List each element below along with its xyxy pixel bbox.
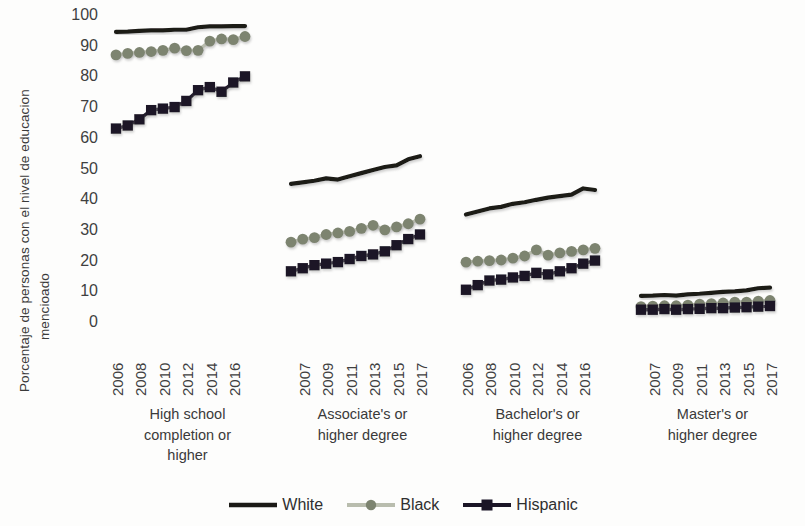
x-axis-year-labels: 2006200820102012201420162007200920112013… — [100, 324, 800, 400]
marker-hispanic-2009 — [671, 305, 681, 315]
x-tick-2017-group-4: 2017 — [763, 363, 780, 396]
marker-hispanic-2006 — [636, 305, 646, 315]
marker-black-2015 — [216, 34, 227, 45]
marker-hispanic-2012 — [706, 303, 716, 313]
group-label-1: High schoolcompletion orhigher — [100, 404, 275, 466]
marker-black-2012 — [181, 45, 192, 56]
plot-area — [100, 8, 800, 322]
legend-swatch-hispanic-icon — [461, 497, 513, 513]
marker-hispanic-2014 — [730, 302, 740, 312]
x-tick-2008-group-3: 2008 — [482, 363, 499, 396]
marker-hispanic-2008 — [659, 304, 669, 314]
series-group-2 — [286, 156, 426, 276]
legend-item-hispanic[interactable]: Hispanic — [461, 496, 577, 514]
group-label-line: higher — [100, 445, 275, 466]
x-tick-2017-group-2: 2017 — [413, 363, 430, 396]
y-axis-title: Porcentaje de personas con el nivel de e… — [0, 0, 56, 400]
marker-hispanic-2017 — [240, 71, 250, 81]
marker-black-2007 — [297, 234, 308, 245]
y-axis-tick-80: 80 — [56, 68, 98, 84]
marker-hispanic-2012 — [531, 268, 541, 278]
x-tick-2011-group-2: 2011 — [343, 364, 360, 396]
legend-swatch-black-icon — [345, 497, 397, 513]
marker-hispanic-2015 — [741, 302, 751, 312]
marker-black-2010 — [333, 228, 344, 239]
marker-black-2007 — [472, 256, 483, 267]
y-axis-tick-70: 70 — [56, 99, 98, 115]
series-group-4 — [636, 288, 776, 315]
marker-hispanic-2008 — [309, 260, 319, 270]
marker-hispanic-2007 — [123, 120, 133, 130]
y-axis-tick-20: 20 — [56, 253, 98, 269]
marker-hispanic-2008 — [484, 275, 494, 285]
x-tick-2016-group-1: 2016 — [226, 363, 243, 396]
marker-hispanic-2015 — [216, 87, 226, 97]
marker-hispanic-2017 — [590, 255, 600, 265]
group-label-line: higher degree — [275, 425, 450, 446]
marker-black-2017 — [590, 243, 601, 254]
marker-black-2011 — [519, 251, 530, 262]
legend-item-white[interactable]: White — [227, 496, 323, 514]
marker-hispanic-2007 — [473, 280, 483, 290]
marker-hispanic-2014 — [205, 82, 215, 92]
marker-hispanic-2010 — [333, 257, 343, 267]
y-axis-tick-100: 100 — [56, 7, 98, 23]
marker-hispanic-2011 — [169, 102, 179, 112]
marker-hispanic-2016 — [753, 301, 763, 311]
marker-hispanic-2016 — [578, 258, 588, 268]
marker-hispanic-2013 — [543, 269, 553, 279]
marker-hispanic-2017 — [415, 229, 425, 239]
marker-black-2007 — [122, 48, 133, 59]
group-label-line: completion or — [100, 425, 275, 446]
group-label-line: higher degree — [625, 425, 800, 446]
marker-hispanic-2009 — [496, 274, 506, 284]
x-tick-2007-group-2: 2007 — [296, 363, 313, 396]
x-tick-2014-group-3: 2014 — [553, 363, 570, 396]
x-tick-2006-group-3: 2006 — [459, 363, 476, 396]
marker-hispanic-2007 — [298, 263, 308, 273]
legend-item-black[interactable]: Black — [345, 496, 439, 514]
marker-black-2014 — [204, 36, 215, 47]
marker-black-2011 — [169, 43, 180, 54]
marker-hispanic-2007 — [648, 305, 658, 315]
marker-hispanic-2011 — [344, 254, 354, 264]
y-axis-title-line-2: mencioado — [37, 273, 52, 340]
marker-hispanic-2012 — [356, 251, 366, 261]
marker-hispanic-2012 — [181, 96, 191, 106]
marker-hispanic-2009 — [321, 258, 331, 268]
x-tick-2013-group-4: 2013 — [716, 363, 733, 396]
x-tick-2014-group-1: 2014 — [203, 363, 220, 396]
chart-svg — [100, 8, 800, 322]
marker-black-2017 — [240, 31, 251, 42]
x-tick-2016-group-3: 2016 — [576, 363, 593, 396]
x-tick-2013-group-2: 2013 — [366, 363, 383, 396]
marker-black-2016 — [578, 244, 589, 255]
marker-black-2015 — [391, 221, 402, 232]
y-axis-tick-labels: 1009080706050403020100 — [52, 0, 98, 340]
y-axis-tick-30: 30 — [56, 222, 98, 238]
group-label-line: Master's or — [625, 404, 800, 425]
line-white-group-1 — [116, 26, 245, 32]
y-axis-tick-60: 60 — [56, 130, 98, 146]
x-tick-2010-group-3: 2010 — [506, 363, 523, 396]
marker-black-2011 — [344, 226, 355, 237]
marker-black-2009 — [146, 46, 157, 57]
x-tick-2009-group-2: 2009 — [319, 363, 336, 396]
legend-label-white: White — [282, 496, 323, 514]
marker-black-2013 — [193, 45, 204, 56]
x-tick-2006-group-1: 2006 — [109, 363, 126, 396]
marker-black-2008 — [309, 232, 320, 243]
marker-black-2009 — [496, 255, 507, 266]
x-tick-2012-group-3: 2012 — [529, 363, 546, 396]
x-tick-2010-group-1: 2010 — [156, 363, 173, 396]
legend-swatch-white-icon — [227, 497, 279, 513]
group-label-3: Bachelor's orhigher degree — [450, 404, 625, 445]
legend-label-hispanic: Hispanic — [516, 496, 577, 514]
x-tick-2007-group-4: 2007 — [646, 363, 663, 396]
marker-black-2016 — [228, 34, 239, 45]
marker-black-2009 — [321, 229, 332, 240]
y-axis-title-line-1: Porcentaje de personas con el nivel de e… — [17, 89, 32, 392]
marker-hispanic-2014 — [555, 266, 565, 276]
group-label-line: Associate's or — [275, 404, 450, 425]
legend-label-black: Black — [400, 496, 439, 514]
